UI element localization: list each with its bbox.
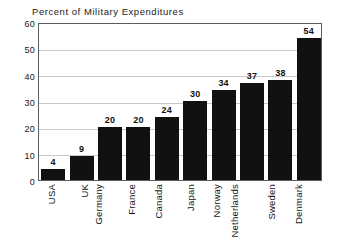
y-axis-tick-label: 50 [25, 45, 35, 55]
bar-value-label: 24 [155, 105, 179, 115]
chart-screenshot: Percent of Military Expenditures 0102030… [0, 0, 343, 240]
y-axis-tick-label: 60 [25, 19, 35, 29]
bar-value-label: 38 [268, 68, 292, 78]
y-axis-tick-label: 10 [25, 151, 35, 161]
x-axis-category-text: France [126, 184, 137, 215]
chart-title: Percent of Military Expenditures [32, 6, 184, 18]
x-axis-category-text: Japan [185, 184, 196, 211]
x-axis-category-text: Germany [93, 184, 104, 224]
bar-value-label: 34 [212, 78, 236, 88]
bar-value-label: 9 [70, 144, 94, 154]
x-axis-category-labels: USAUKGermanyFranceCanadaJapanNorwayNethe… [38, 184, 322, 240]
x-axis-category-text: USA [47, 184, 58, 204]
x-axis-category-text: Netherlands [229, 184, 240, 237]
bar[interactable] [240, 83, 264, 180]
bar-value-label: 30 [183, 89, 207, 99]
bar-slot: 9 [70, 24, 94, 180]
bars-group: 492020243034373854 [39, 24, 321, 180]
y-axis-tick-label: 40 [25, 72, 35, 82]
x-axis-category-text: Denmark [292, 184, 303, 224]
bar-value-label: 37 [240, 71, 264, 81]
x-axis-category-text: UK [78, 184, 89, 198]
bar-slot: 37 [240, 24, 264, 180]
y-axis-tick-label: 30 [25, 98, 35, 108]
bar-value-label: 54 [297, 26, 321, 36]
bar-value-label: 20 [126, 115, 150, 125]
bar-value-label: 20 [98, 115, 122, 125]
x-axis-category-text: Norway [210, 184, 221, 217]
y-axis-tick-label: 0 [30, 177, 35, 187]
bar-slot: 4 [41, 24, 65, 180]
y-axis-tick-label: 20 [25, 124, 35, 134]
plot-area: 0102030405060 492020243034373854 [38, 23, 322, 181]
x-axis-category-text: Sweden [266, 184, 277, 220]
x-axis-category-text: Canada [153, 184, 164, 218]
